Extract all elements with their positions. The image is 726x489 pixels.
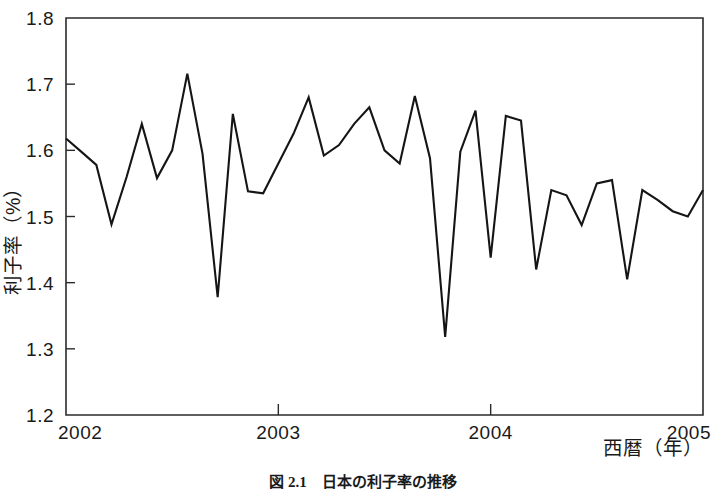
y-tick-label: 1.3 — [26, 339, 54, 360]
y-axis-tick-labels: 1.21.31.41.51.61.71.8 — [26, 8, 54, 426]
y-tick-label: 1.7 — [26, 74, 54, 95]
x-tick-label: 2004 — [469, 422, 513, 443]
x-axis-label: 西暦（年） — [603, 437, 703, 459]
figure-container: 1.21.31.41.51.61.71.8 2002200320042005 利… — [0, 0, 726, 489]
x-tick-label: 2002 — [58, 422, 102, 443]
x-tick-label: 2003 — [256, 422, 300, 443]
y-tick-label: 1.6 — [26, 140, 54, 161]
y-tick-label: 1.5 — [26, 207, 54, 228]
figure-caption: 図 2.1 日本の利子率の推移 — [269, 473, 457, 489]
y-tick-label: 1.8 — [26, 8, 54, 29]
plot-background — [66, 18, 703, 415]
y-axis-label: 利子率（%） — [2, 178, 24, 295]
y-tick-label: 1.4 — [26, 273, 54, 294]
y-tick-label: 1.2 — [26, 405, 54, 426]
interest-rate-line-chart: 1.21.31.41.51.61.71.8 2002200320042005 利… — [0, 0, 726, 489]
